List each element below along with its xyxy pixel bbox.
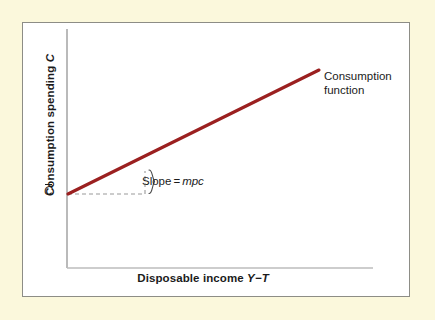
- slope-annotation-equals: =: [171, 175, 182, 187]
- y-axis-title-variable: C: [44, 54, 56, 62]
- x-axis-title-text: Disposable income: [137, 272, 247, 284]
- slope-annotation-value: mpc: [182, 175, 204, 187]
- figure-root: Consumption spending C Disposable income…: [0, 0, 435, 320]
- series-callout: Consumption function: [324, 70, 392, 97]
- series-callout-line1: Consumption: [324, 70, 392, 84]
- x-axis-title: Disposable income Y−T: [23, 272, 383, 284]
- intercept-label: C: [44, 185, 53, 197]
- series-callout-line2: function: [324, 84, 392, 98]
- chart-svg: [23, 23, 411, 298]
- slope-annotation: Slope=mpc: [142, 175, 204, 187]
- intercept-label-text: C: [44, 185, 53, 197]
- slope-annotation-text: Slope: [142, 175, 171, 187]
- y-axis-title-text: Consumption spending: [44, 62, 56, 196]
- x-axis-title-variable: Y−T: [247, 272, 269, 284]
- figure-plate: Consumption spending C Disposable income…: [22, 22, 410, 297]
- plot-area: [23, 23, 411, 298]
